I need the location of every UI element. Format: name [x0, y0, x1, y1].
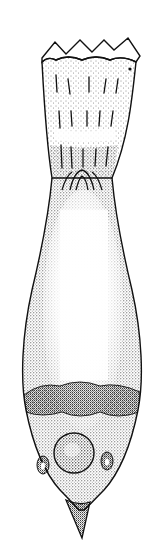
- neck-segment: [42, 57, 136, 178]
- round-granule: [54, 433, 94, 473]
- organism-drawing: [0, 0, 167, 548]
- dark-band: [24, 382, 140, 416]
- illustration-canvas: [0, 0, 167, 548]
- foot-spike: [66, 500, 90, 538]
